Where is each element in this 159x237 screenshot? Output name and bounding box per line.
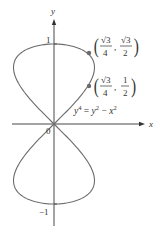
svg-text:√3: √3 [101,35,111,45]
svg-text:2: 2 [123,88,128,98]
upper-point-label: ( √3 4 , √3 2 ) [94,33,139,58]
svg-text:): ) [134,33,139,58]
svg-text:4: 4 [103,88,108,98]
y-tick-label-1: 1 [46,35,51,45]
svg-text:√3: √3 [121,35,131,45]
y-tick-label-neg1: −1 [39,207,49,217]
x-axis-arrow-icon [139,122,145,126]
svg-text:): ) [131,73,136,98]
svg-text:,: , [114,42,116,52]
svg-text:2: 2 [123,48,128,58]
equation-label: y4 = y2 − x2 [73,104,117,116]
x-axis-label: x [148,119,153,129]
svg-text:1: 1 [123,75,128,85]
svg-text:(: ( [94,33,99,58]
curve-diagram: y x 0 1 −1 ( √3 4 , √3 2 ) ( √3 4 , 1 2 … [0,0,159,237]
y-axis-label: y [50,6,55,16]
svg-text:√3: √3 [101,75,111,85]
lower-point-marker [87,84,91,88]
upper-point-marker [87,51,91,55]
svg-text:,: , [114,82,116,92]
svg-text:(: ( [94,73,99,98]
svg-text:4: 4 [103,48,108,58]
lower-point-label: ( √3 4 , 1 2 ) [94,73,136,98]
y-axis-arrow-icon [52,19,56,25]
origin-label: 0 [46,126,51,136]
